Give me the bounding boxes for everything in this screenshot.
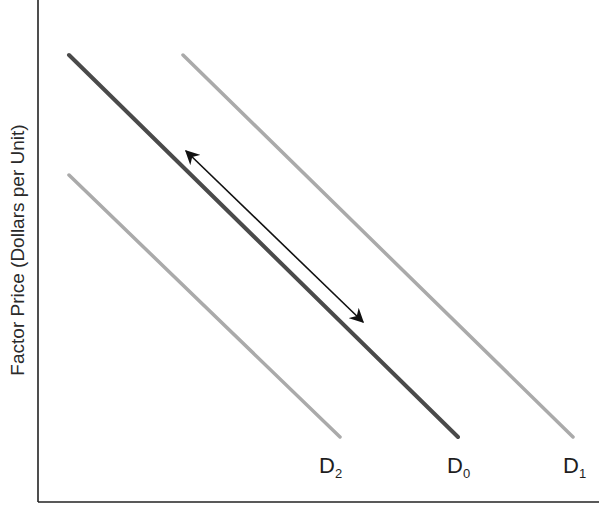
demand-curve-d2 — [69, 175, 340, 437]
label-d1-subscript: 1 — [579, 466, 586, 481]
demand-curve-d0 — [69, 55, 458, 437]
label-d0: D0 — [447, 455, 470, 480]
label-d0-subscript: 0 — [463, 466, 470, 481]
label-d2-subscript: 2 — [335, 466, 342, 481]
label-d0-letter: D — [447, 453, 463, 478]
label-d1: D1 — [563, 455, 586, 480]
label-d2: D2 — [319, 455, 342, 480]
demand-curve-d1 — [183, 55, 573, 437]
label-d1-letter: D — [563, 453, 579, 478]
demand-shift-diagram — [0, 0, 599, 512]
y-axis-label: Factor Price (Dollars per Unit) — [7, 124, 29, 375]
movement-arrow-icon — [186, 151, 363, 322]
label-d2-letter: D — [319, 453, 335, 478]
